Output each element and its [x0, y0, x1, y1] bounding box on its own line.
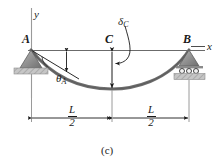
left-span-denominator: 2: [60, 117, 84, 129]
left-span-numerator: L: [60, 104, 84, 116]
right-span-denominator: 2: [139, 117, 163, 129]
deflected-beam-curve: [31, 50, 189, 89]
delta-c-leader-line: [116, 26, 131, 64]
dimension-label-right-span: L 2: [139, 104, 163, 128]
figure-caption: (c): [101, 145, 113, 156]
roller-wheels: [180, 69, 199, 74]
beam-deflection-figure: A C B y x δC θA L 2 L 2 (c): [0, 0, 224, 167]
label-delta-c: δC: [118, 16, 128, 29]
label-y-axis: y: [34, 9, 39, 20]
label-point-b: B: [183, 33, 191, 45]
delta-subscript: C: [123, 20, 128, 29]
label-point-c: C: [105, 33, 113, 45]
right-span-numerator: L: [139, 104, 163, 116]
label-theta-a: θA: [56, 73, 66, 86]
label-x-axis: x: [207, 41, 212, 52]
label-point-a: A: [22, 33, 30, 45]
dimension-label-left-span: L 2: [60, 104, 84, 128]
theta-subscript: A: [61, 77, 66, 86]
figure-canvas: [0, 0, 224, 167]
